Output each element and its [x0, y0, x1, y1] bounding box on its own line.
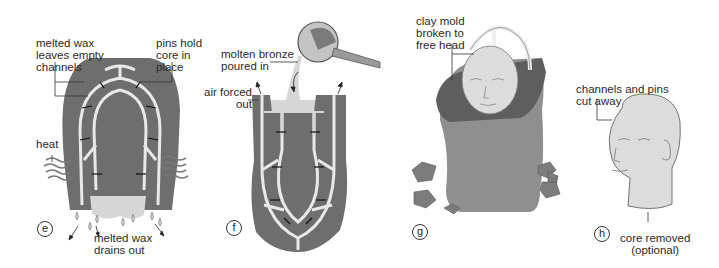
- lost-wax-casting-diagram: melted wax leaves empty channels pins ho…: [0, 0, 719, 268]
- panel-h-finished-head: [597, 94, 680, 222]
- label-channels-cut: channels and pins cut away: [576, 83, 669, 107]
- label-molten-bronze: molten bronze poured in: [221, 48, 294, 72]
- label-core-removed: core removed (optional): [620, 232, 690, 256]
- label-wax-drains: melted wax drains out: [94, 232, 152, 256]
- label-air-forced: air forced out: [204, 86, 252, 110]
- panel-g-broken-mold: [412, 28, 560, 215]
- step-marker-e: e: [37, 221, 53, 237]
- panel-e-mold: [44, 58, 188, 240]
- illustrations: [0, 0, 719, 268]
- step-marker-h: h: [594, 226, 610, 242]
- step-marker-f: f: [226, 220, 242, 236]
- label-heat: heat: [36, 138, 58, 150]
- label-pins: pins hold core in place: [156, 37, 202, 73]
- step-marker-g: g: [412, 224, 428, 240]
- label-clay-mold: clay mold broken to free head: [416, 15, 465, 51]
- label-wax-channels: melted wax leaves empty channels: [36, 37, 104, 73]
